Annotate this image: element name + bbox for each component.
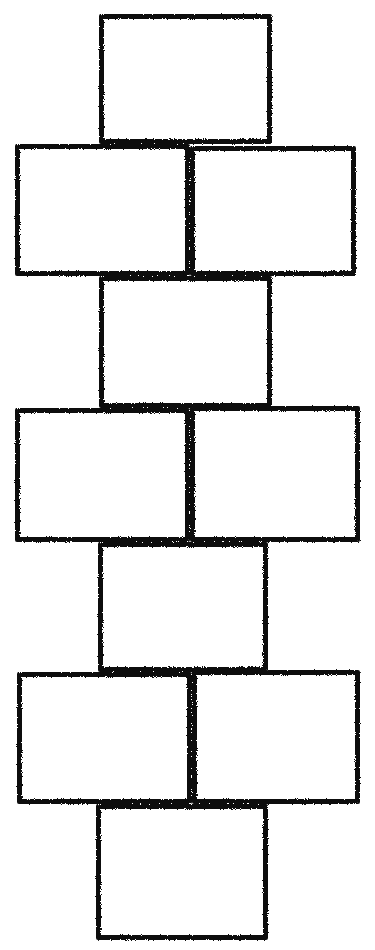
hopscotch-square <box>190 406 360 542</box>
hopscotch-square <box>15 408 190 542</box>
hopscotch-square <box>192 670 360 804</box>
hopscotch-square <box>98 542 268 672</box>
hopscotch-grid <box>0 0 375 950</box>
hopscotch-square <box>96 804 268 940</box>
hopscotch-square <box>17 672 192 804</box>
hopscotch-square <box>15 144 190 276</box>
hopscotch-square <box>190 146 356 276</box>
hopscotch-square <box>99 14 272 144</box>
hopscotch-square <box>99 276 272 408</box>
